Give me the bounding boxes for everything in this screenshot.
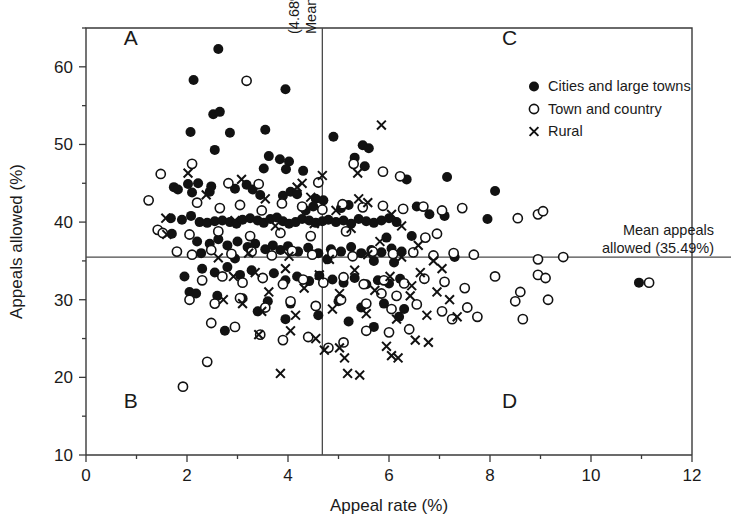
data-point [298, 166, 308, 176]
data-point [278, 335, 287, 344]
data-point [179, 271, 189, 281]
data-point [354, 194, 363, 203]
data-point [291, 311, 300, 320]
data-point [187, 188, 197, 198]
data-point [186, 127, 196, 137]
data-point [424, 338, 433, 347]
x-tick-label: 8 [485, 466, 494, 485]
x-axis-title: Appeal rate (%) [330, 496, 448, 515]
data-point [376, 237, 385, 246]
data-point [362, 299, 371, 308]
data-point [218, 272, 227, 281]
data-point [419, 202, 428, 211]
data-point [634, 278, 644, 288]
data-point [277, 199, 286, 208]
x-tick-label: 10 [582, 466, 601, 485]
data-point [644, 278, 653, 287]
data-point [298, 202, 307, 211]
legend-marker-filled-circle-icon [529, 82, 539, 92]
data-point [215, 107, 225, 117]
data-point [313, 310, 323, 320]
data-point [339, 273, 348, 282]
data-point [210, 145, 220, 155]
data-point [438, 264, 447, 273]
data-point [378, 201, 387, 210]
data-point [177, 215, 187, 225]
data-point [264, 288, 273, 297]
data-point [311, 301, 320, 310]
data-point [230, 322, 239, 331]
data-point [215, 204, 224, 213]
data-point [281, 264, 290, 273]
data-point [440, 277, 449, 286]
data-point [318, 205, 327, 214]
data-point [260, 125, 270, 135]
data-point [187, 159, 196, 168]
data-point [406, 291, 415, 300]
y-tick-label: 10 [54, 446, 73, 465]
y-tick-label: 50 [54, 135, 73, 154]
data-point [172, 247, 181, 256]
data-point [359, 280, 368, 289]
data-point [541, 273, 550, 282]
data-point [378, 167, 387, 176]
data-point [340, 354, 349, 363]
data-point [281, 164, 291, 174]
data-point [267, 251, 276, 260]
data-point [518, 315, 527, 324]
data-point [463, 303, 472, 312]
data-point [269, 268, 279, 278]
data-point [318, 195, 328, 205]
data-point [382, 342, 391, 351]
y-tick-label: 60 [54, 58, 73, 77]
data-point [513, 214, 522, 223]
data-point [355, 371, 364, 380]
data-point [214, 227, 223, 236]
data-point [432, 229, 441, 238]
data-point [422, 311, 431, 320]
data-point [538, 207, 547, 216]
data-point [433, 288, 442, 297]
data-point [186, 211, 196, 221]
data-point [377, 121, 386, 130]
data-point [166, 213, 176, 223]
data-point [197, 264, 207, 274]
data-point [237, 175, 246, 184]
data-point [185, 295, 194, 304]
data-point [346, 242, 356, 252]
data-point [490, 272, 499, 281]
data-point [533, 255, 542, 264]
data-point [327, 275, 337, 285]
data-point [414, 241, 423, 250]
data-point [280, 314, 290, 324]
data-point [275, 154, 285, 164]
data-point [173, 184, 183, 194]
legend-marker-cross-icon [530, 127, 539, 136]
y-tick-label: 20 [54, 368, 73, 387]
x-tick-label: 2 [182, 466, 191, 485]
y-tick-label: 40 [54, 213, 73, 232]
data-point [196, 248, 206, 258]
data-point [258, 273, 267, 282]
mean-appeal-rate-label: (4.68%) [286, 0, 302, 34]
data-point [407, 231, 417, 241]
data-point [445, 295, 454, 304]
data-point [437, 307, 446, 316]
legend-label: Cities and large towns [548, 78, 691, 94]
data-point [458, 204, 467, 213]
data-point [259, 164, 269, 174]
data-point [399, 204, 408, 213]
data-point [511, 297, 520, 306]
data-point [543, 295, 552, 304]
data-point [473, 312, 482, 321]
data-point [280, 84, 290, 94]
legend-marker-open-circle-icon [529, 104, 538, 113]
data-point [271, 222, 280, 231]
data-point [222, 262, 232, 272]
data-point [387, 304, 396, 313]
data-point [460, 283, 469, 292]
data-point [185, 230, 194, 239]
data-point [210, 299, 219, 308]
data-point [437, 206, 446, 215]
data-point [264, 151, 274, 161]
